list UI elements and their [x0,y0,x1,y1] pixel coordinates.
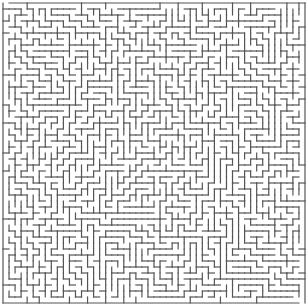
maze-board [0,0,308,307]
maze-svg [0,0,308,307]
